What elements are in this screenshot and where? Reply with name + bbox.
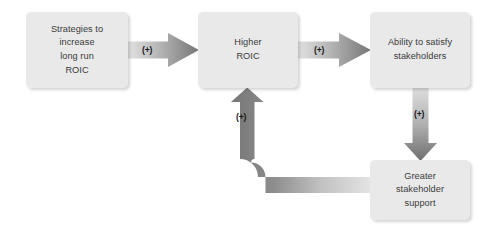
connector-ability-to-support [404, 88, 437, 161]
node-ability-to-satisfy-stakeholders[interactable]: Ability to satisfy stakeholders [370, 12, 470, 88]
node-higher-roic[interactable]: Higher ROIC [198, 12, 298, 88]
connector-label-strategies-to-higher-roic: (+) [142, 45, 152, 55]
node-strategies[interactable]: Strategies to increase long run ROIC [26, 12, 128, 88]
node-greater-stakeholder-support[interactable]: Greater stakeholder support [370, 160, 470, 220]
node-higher-roic-label: Higher ROIC [234, 36, 261, 63]
connector-strategies-to-higher-roic [128, 33, 199, 67]
diagram-canvas: Strategies to increase long run ROIC Hig… [0, 0, 491, 228]
connector-label-ability-to-support: (+) [414, 109, 424, 119]
node-strategies-label: Strategies to increase long run ROIC [51, 23, 103, 77]
node-ability-label: Ability to satisfy stakeholders [388, 36, 452, 63]
connector-label-higher-roic-to-ability: (+) [314, 45, 324, 55]
connector-label-support-to-higher-roic: (+) [236, 112, 246, 122]
feedback-arrow-group [231, 88, 371, 194]
connector-higher-roic-to-ability [298, 33, 371, 67]
node-support-label: Greater stakeholder support [396, 170, 444, 211]
